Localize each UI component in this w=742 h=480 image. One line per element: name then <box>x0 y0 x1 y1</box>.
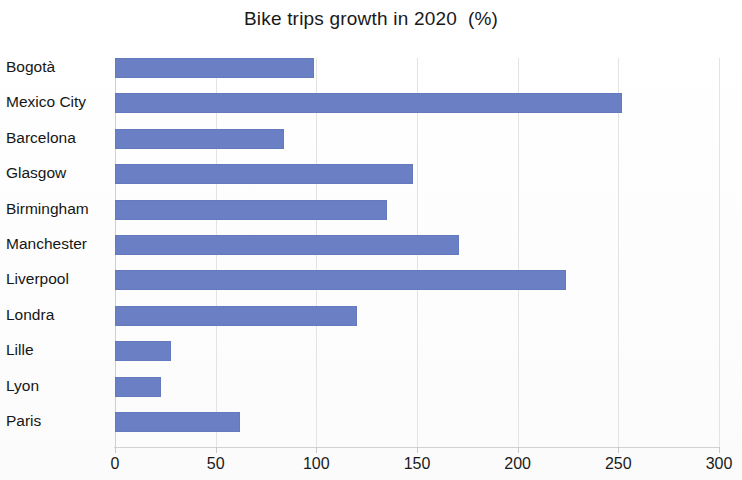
bar[interactable] <box>115 412 240 432</box>
gridline-250 <box>618 58 619 447</box>
x-tick-label: 300 <box>689 455 742 473</box>
bar[interactable] <box>115 93 622 113</box>
category-label: Barcelona <box>6 129 110 147</box>
category-label: Lyon <box>6 377 110 395</box>
bar[interactable] <box>115 235 459 255</box>
x-tick-mark-250 <box>618 447 619 453</box>
bar[interactable] <box>115 129 284 149</box>
x-tick-mark-0 <box>115 447 116 453</box>
category-label: Londra <box>6 306 110 324</box>
bar[interactable] <box>115 58 314 78</box>
x-tick-mark-200 <box>518 447 519 453</box>
chart-title: Bike trips growth in 2020 (%) <box>0 8 742 30</box>
category-label: Bogotà <box>6 58 110 76</box>
x-tick-mark-300 <box>719 447 720 453</box>
x-tick-label: 100 <box>286 455 346 473</box>
bar[interactable] <box>115 164 413 184</box>
x-tick-mark-100 <box>316 447 317 453</box>
category-label: Birmingham <box>6 200 110 218</box>
category-label: Paris <box>6 412 110 430</box>
category-label: Mexico City <box>6 93 110 111</box>
category-label: Lille <box>6 341 110 359</box>
category-label: Manchester <box>6 235 110 253</box>
bar[interactable] <box>115 377 161 397</box>
x-tick-label: 250 <box>588 455 648 473</box>
bar[interactable] <box>115 306 357 326</box>
chart-page: Bike trips growth in 2020 (%) 0501001502… <box>0 0 742 480</box>
x-tick-label: 50 <box>186 455 246 473</box>
x-tick-mark-150 <box>417 447 418 453</box>
x-tick-label: 0 <box>85 455 145 473</box>
x-tick-label: 200 <box>488 455 548 473</box>
bar[interactable] <box>115 341 171 361</box>
category-label: Liverpool <box>6 270 110 288</box>
bar[interactable] <box>115 200 387 220</box>
plot-area <box>115 58 719 447</box>
x-tick-mark-50 <box>216 447 217 453</box>
x-tick-label: 150 <box>387 455 447 473</box>
bar[interactable] <box>115 270 566 290</box>
category-label: Glasgow <box>6 164 110 182</box>
gridline-300 <box>719 58 720 447</box>
gridline-200 <box>518 58 519 447</box>
